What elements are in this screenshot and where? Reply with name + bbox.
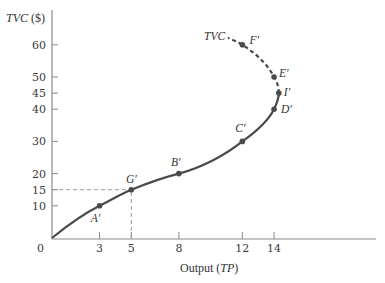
x-tick-label: 3 (96, 242, 103, 255)
data-point-marker (240, 139, 246, 145)
data-point-marker (176, 171, 182, 177)
y-tick-label: 30 (32, 135, 46, 148)
tvc-solid-segment (52, 93, 279, 238)
data-point-marker (240, 42, 246, 48)
y-tick-label: 40 (32, 103, 46, 116)
point-label: F′ (249, 34, 260, 46)
data-point-marker (276, 90, 282, 96)
point-label: D′ (280, 103, 292, 115)
axes: 10152030404550603581214 (32, 10, 376, 255)
data-point-marker (97, 203, 103, 209)
x-tick-label: 5 (128, 242, 135, 255)
y-tick-label: 45 (32, 87, 46, 100)
y-tick-label: 15 (32, 184, 46, 197)
tvc-curve (52, 38, 279, 238)
origin-label: 0 (37, 242, 44, 255)
point-label: G′ (126, 173, 137, 185)
x-tick-label: 8 (175, 242, 182, 255)
series-label-tvc: TVC (204, 30, 225, 42)
data-point-marker (129, 187, 135, 193)
y-tick-label: 20 (32, 168, 46, 181)
tvc-dashed-segment (228, 38, 279, 93)
y-tick-label: 50 (32, 71, 46, 84)
tvc-chart: 10152030404550603581214 A′G′B′C′D′I′E′F′… (0, 0, 385, 283)
y-axis-title: TVC ($) (6, 11, 45, 25)
point-label: E′ (278, 67, 289, 79)
y-tick-label: 60 (32, 39, 46, 52)
point-label: C′ (235, 122, 246, 134)
data-point-marker (271, 74, 277, 80)
point-label: I′ (283, 86, 291, 98)
x-tick-label: 12 (235, 242, 249, 255)
point-label: A′ (90, 212, 101, 224)
x-axis-title: Output (TP) (180, 261, 238, 275)
x-tick-label: 14 (267, 242, 281, 255)
y-tick-label: 10 (32, 200, 46, 213)
data-point-marker (271, 106, 277, 112)
point-label: B′ (171, 156, 181, 168)
